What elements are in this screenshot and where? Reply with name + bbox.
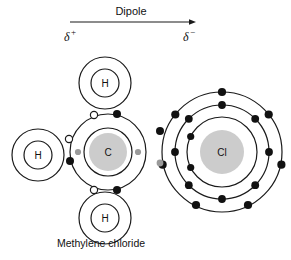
chlorine-symbol: Cl [217,147,226,158]
chlorine-outer-electron [192,201,200,209]
chlorine-outer-electron [171,110,179,118]
chlorine-middle-electron [265,148,273,156]
figure-caption: Methylene chloride [57,237,145,249]
delta-negative-sign: − [190,27,195,37]
molecule-diagram: Dipole δ + δ − H H H [0,0,291,260]
dipole-label: Dipole [115,5,146,17]
atom-hydrogen-top: H [79,57,131,109]
delta-negative-label: δ [183,30,189,44]
chlorine-middle-electron [171,148,179,156]
carbon-inner-electron-right [135,149,141,155]
bond-electron-hydrogen-left [65,135,72,142]
dipole-arrow-head [189,19,196,25]
carbon-symbol: C [104,147,111,158]
atom-carbon: C [70,114,146,190]
chlorine-middle-electron [185,115,193,123]
bond-electron-carbon-chlorine-shared [157,160,164,167]
bond-electron-hydrogen-bottom [90,186,97,193]
hydrogen-bottom-symbol: H [101,213,108,224]
delta-positive-sign: + [71,27,76,37]
figure-container: Dipole δ + δ − H H H [0,0,291,260]
carbon-inner-electron-left [75,149,81,155]
chlorine-middle-electron [185,181,193,189]
atom-chlorine: Cl [159,88,286,212]
bond-electron-carbon-top [113,110,121,118]
chlorine-outer-electron [244,201,252,209]
bond-electron-chlorine [156,127,164,135]
delta-positive-label: δ [64,30,70,44]
chlorine-middle-electron [251,181,259,189]
atom-hydrogen-left: H [12,129,64,181]
chlorine-outer-electron [218,88,226,96]
chlorine-outer-electron [277,161,285,169]
bond-electron-hydrogen-top [90,111,97,118]
dipole-annotation: Dipole δ + δ − [64,5,196,44]
chlorine-middle-electron [218,195,226,203]
bond-electron-carbon-left [66,157,74,165]
hydrogen-top-symbol: H [101,78,108,89]
chlorine-middle-electron [218,101,226,109]
hydrogen-left-symbol: H [34,150,41,161]
chlorine-outer-electron [265,110,273,118]
chlorine-inner-electron [187,164,194,171]
bond-electron-carbon-bottom [113,186,121,194]
chlorine-inner-electron [187,133,194,140]
chlorine-middle-electron [251,115,259,123]
